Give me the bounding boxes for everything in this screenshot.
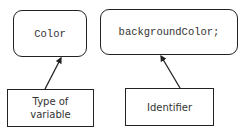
connector-arrows [0, 0, 244, 135]
arrow-identifier [161, 56, 180, 88]
arrow-type [45, 58, 61, 89]
